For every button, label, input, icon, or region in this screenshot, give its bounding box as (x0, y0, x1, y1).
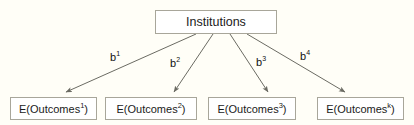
edge-label-b4: b4 (300, 50, 310, 62)
edge-label-b1: b1 (110, 51, 120, 63)
edge-label-b2: b2 (170, 57, 180, 69)
node-outcome-k-label: E(Outcomesk) (326, 103, 395, 115)
node-outcome-2: E(Outcomes2) (105, 97, 197, 120)
edge-label-b3: b3 (256, 56, 266, 68)
edge-label-b2-superscript: 2 (176, 56, 180, 63)
node-outcome-1-label: E(Outcomes1) (19, 103, 88, 115)
node-institutions-label: Institutions (186, 15, 246, 29)
node-outcome-3-label: E(Outcomes3) (218, 103, 287, 115)
edge-label-b4-superscript: 4 (306, 49, 310, 56)
node-outcome-2-label: E(Outcomes2) (117, 103, 186, 115)
edge-label-b3-superscript: 3 (262, 55, 266, 62)
node-outcome-k: E(Outcomesk) (317, 97, 404, 120)
node-outcome-1: E(Outcomes1) (10, 97, 97, 120)
causal-path-diagram: Institutions E(Outcomes1) E(Outcomes2) E… (0, 0, 414, 125)
node-institutions: Institutions (155, 10, 277, 34)
node-outcome-3: E(Outcomes3) (208, 97, 296, 120)
edge-label-b1-superscript: 1 (116, 50, 120, 57)
